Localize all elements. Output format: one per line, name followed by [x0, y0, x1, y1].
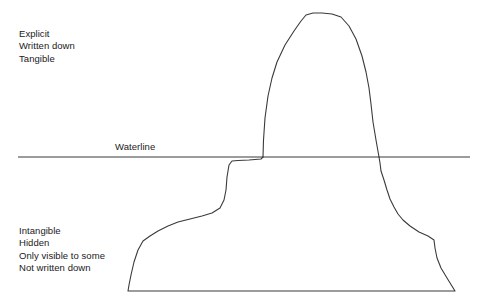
explicit-label-line-1: Explicit: [19, 28, 75, 40]
iceberg-diagram-canvas: Explicit Written down Tangible Waterline…: [0, 0, 486, 303]
intangible-label-line-3: Only visible to some: [19, 250, 105, 262]
iceberg-keel-outline: [128, 157, 455, 291]
intangible-label-line-4: Not written down: [19, 262, 105, 274]
intangible-label-line-2: Hidden: [19, 237, 105, 249]
explicit-label-line-2: Written down: [19, 40, 75, 52]
intangible-label-line-1: Intangible: [19, 225, 105, 237]
explicit-label-line-3: Tangible: [19, 53, 75, 65]
iceberg-peak-outline: [263, 13, 379, 157]
waterline-label: Waterline: [115, 141, 155, 153]
intangible-label-block: Intangible Hidden Only visible to some N…: [19, 225, 105, 275]
explicit-label-block: Explicit Written down Tangible: [19, 28, 75, 65]
